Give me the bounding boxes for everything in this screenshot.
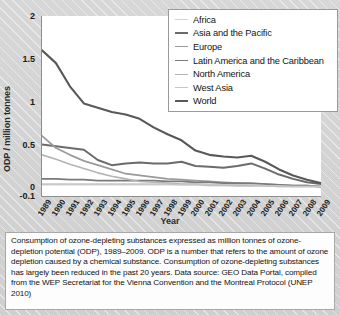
x-tick-2003: 2003 bbox=[231, 198, 248, 218]
legend-label-africa: Africa bbox=[193, 15, 216, 25]
chart-legend: AfricaAsia and the PacificEuropeLatin Am… bbox=[168, 9, 338, 112]
legend-label-europe: Europe bbox=[193, 42, 222, 52]
x-tick-1991: 1991 bbox=[64, 198, 81, 218]
y-tick-neg0-1: -0.1 bbox=[19, 191, 35, 201]
line-chart: ODP / million tonnes 21.510.50-0.1 19891… bbox=[0, 0, 340, 232]
x-axis-title: Year bbox=[0, 216, 340, 226]
x-tick-1994: 1994 bbox=[106, 198, 123, 218]
x-tick-1990: 1990 bbox=[50, 198, 67, 218]
x-tick-2005: 2005 bbox=[259, 198, 276, 218]
legend-item-north-america[interactable]: North America bbox=[172, 67, 333, 81]
legend-swatch-north-america bbox=[175, 74, 188, 75]
y-tick-2: 2 bbox=[30, 11, 35, 21]
y-tick-1neg5: 1.5 bbox=[22, 54, 35, 64]
x-tick-1995: 1995 bbox=[120, 198, 137, 218]
legend-item-west-asia[interactable]: West Asia bbox=[172, 81, 333, 95]
x-tick-2001: 2001 bbox=[203, 198, 220, 218]
x-tick-1997: 1997 bbox=[148, 198, 165, 218]
legend-item-latin-america-and-the-caribbean[interactable]: Latin America and the Caribbean bbox=[172, 54, 333, 68]
legend-swatch-world bbox=[175, 100, 188, 102]
legend-swatch-africa bbox=[175, 19, 188, 20]
legend-swatch-europe bbox=[175, 46, 188, 47]
series-line-asia-and-the-pacific bbox=[42, 145, 321, 184]
legend-label-north-america: North America bbox=[193, 69, 250, 79]
x-tick-2009: 2009 bbox=[315, 198, 332, 218]
y-tick-1: 1 bbox=[30, 97, 35, 107]
legend-label-asia-and-the-pacific: Asia and the Pacific bbox=[193, 28, 272, 38]
legend-label-latin-america-and-the-caribbean: Latin America and the Caribbean bbox=[193, 56, 324, 66]
x-tick-1993: 1993 bbox=[92, 198, 109, 218]
x-tick-1996: 1996 bbox=[134, 198, 151, 218]
x-tick-2008: 2008 bbox=[301, 198, 318, 218]
x-tick-2002: 2002 bbox=[217, 198, 234, 218]
y-tick-0neg5: 0.5 bbox=[22, 140, 35, 150]
legend-label-world: World bbox=[193, 96, 216, 106]
x-tick-1989: 1989 bbox=[36, 198, 53, 218]
x-tick-2004: 2004 bbox=[245, 198, 262, 218]
legend-swatch-west-asia bbox=[175, 87, 188, 88]
legend-item-africa[interactable]: Africa bbox=[172, 13, 333, 27]
legend-item-asia-and-the-pacific[interactable]: Asia and the Pacific bbox=[172, 27, 333, 41]
x-tick-1992: 1992 bbox=[78, 198, 95, 218]
x-axis-tick-labels: 1989199019911992199319941995199619971998… bbox=[41, 198, 320, 232]
x-tick-2006: 2006 bbox=[273, 198, 290, 218]
legend-item-world[interactable]: World bbox=[172, 95, 333, 109]
y-axis-tick-labels: 21.510.50-0.1 bbox=[0, 0, 38, 232]
legend-swatch-asia-and-the-pacific bbox=[175, 32, 188, 34]
legend-item-europe[interactable]: Europe bbox=[172, 40, 333, 54]
legend-swatch-latin-america-and-the-caribbean bbox=[175, 60, 188, 61]
x-tick-2007: 2007 bbox=[287, 198, 304, 218]
figure-ozone-depleting-substances: ODP / million tonnes 21.510.50-0.1 19891… bbox=[0, 0, 340, 315]
legend-label-west-asia: West Asia bbox=[193, 83, 233, 93]
figure-caption: Consumption of ozone-depleting substance… bbox=[5, 232, 335, 310]
